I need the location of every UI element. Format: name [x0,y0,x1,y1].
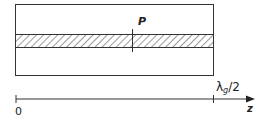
half-wavelength-label: λg/2 [216,81,240,95]
z-axis-label: z [247,104,253,114]
lambda-suffix: /2 [228,80,240,94]
z-axis-arrowhead [246,96,255,103]
hatched-strip [16,35,214,48]
p-label: P [138,16,146,27]
diagram-canvas [0,0,265,121]
zero-label: 0 [15,106,22,117]
